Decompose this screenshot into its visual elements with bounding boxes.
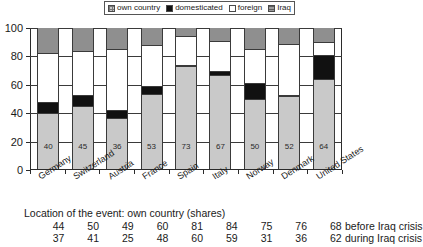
y-axis-tick-label: 100: [5, 23, 23, 34]
table-caption: Location of the event: own country (shar…: [24, 208, 225, 219]
table-cell: 50: [69, 220, 99, 232]
bar-slot: 40: [31, 28, 65, 169]
table-cell: 37: [34, 232, 64, 244]
segment-foreign: [38, 53, 58, 102]
bar-value-label: 67: [210, 143, 230, 151]
segment-domesticated: [314, 56, 334, 79]
stacked-bar[interactable]: 52: [278, 28, 300, 169]
chart-legend: own country domesticated foreign Iraq: [104, 1, 295, 15]
segment-foreign: [279, 44, 299, 96]
segment-domesticated: [210, 72, 230, 75]
table-cell: 59: [208, 232, 238, 244]
bar-value-label: 73: [176, 143, 196, 151]
table-cell: 49: [104, 220, 134, 232]
segment-own-country: [210, 75, 230, 169]
legend-item-domesticated: domesticated: [166, 4, 223, 12]
y-axis-tick-label: 40: [11, 108, 23, 119]
table-row: during Iraq crisis 374125486059313662: [0, 232, 421, 245]
x-axis-category-labels: GermanySwitzerlandAustriaFranceSpainItal…: [30, 174, 342, 206]
segment-own-country: [279, 96, 299, 169]
y-axis-tick-label: 0: [17, 165, 23, 176]
segment-iraq: [73, 28, 93, 51]
segment-own-country: [73, 106, 93, 169]
table-row-label-during: during Iraq crisis: [345, 232, 422, 244]
legend-label-domesticated: domesticated: [175, 4, 223, 12]
bar-value-label: 64: [314, 143, 334, 151]
stacked-bar[interactable]: 73: [175, 28, 197, 169]
y-axis-tick-label: 20: [11, 136, 23, 147]
segment-iraq: [314, 28, 334, 42]
segment-iraq: [245, 28, 265, 49]
legend-item-foreign: foreign: [229, 4, 262, 12]
swatch-iraq-icon: [268, 5, 275, 12]
segment-foreign: [245, 49, 265, 84]
chart-plot-area: 020406080100 404536537367505264: [30, 28, 342, 170]
table-row-label-before: before Iraq crisis: [345, 220, 423, 232]
bar-value-label: 40: [38, 143, 58, 151]
table-cell: 36: [277, 232, 307, 244]
segment-iraq: [107, 28, 127, 49]
stacked-bar[interactable]: 64: [313, 28, 335, 169]
segment-foreign: [314, 42, 334, 56]
table-cell: 84: [208, 220, 238, 232]
legend-label-own-country: own country: [117, 4, 160, 12]
segment-foreign: [107, 49, 127, 111]
table-cell: 76: [277, 220, 307, 232]
stacked-bar[interactable]: 45: [72, 28, 94, 169]
table-cell: 68: [312, 220, 342, 232]
segment-foreign: [176, 36, 196, 66]
segment-domesticated: [245, 84, 265, 98]
swatch-own-country-icon: [108, 5, 115, 12]
segment-foreign: [210, 41, 230, 72]
bar-slot: 45: [65, 28, 99, 169]
table-cell: 41: [69, 232, 99, 244]
segment-domesticated: [142, 87, 162, 94]
segment-iraq: [38, 28, 58, 53]
segment-domesticated: [38, 103, 58, 113]
segment-own-country: [176, 66, 196, 169]
segment-iraq: [176, 28, 196, 36]
segment-domesticated: [107, 111, 127, 118]
stacked-bar[interactable]: 67: [209, 28, 231, 169]
bar-slot: 53: [134, 28, 168, 169]
y-axis-tick-mark: [26, 56, 30, 57]
stacked-bar[interactable]: 40: [37, 28, 59, 169]
table-cell: 60: [173, 232, 203, 244]
bar-value-label: 52: [279, 143, 299, 151]
bar-slot: 36: [100, 28, 134, 169]
segment-own-country: [245, 99, 265, 170]
table-cell: 31: [242, 232, 272, 244]
x-axis-tick-mark: [342, 170, 343, 174]
y-axis-tick-mark: [26, 85, 30, 86]
swatch-domesticated-icon: [166, 5, 173, 12]
bar-value-label: 45: [73, 143, 93, 151]
y-axis-tick-label: 60: [11, 79, 23, 90]
y-axis-tick-mark: [26, 28, 30, 29]
table-cell: 44: [34, 220, 64, 232]
segment-own-country: [314, 79, 334, 169]
bar-group: 404536537367505264: [31, 28, 341, 169]
segment-own-country: [142, 94, 162, 169]
segment-foreign: [73, 51, 93, 96]
table-cell: 75: [242, 220, 272, 232]
stacked-bar[interactable]: 50: [244, 28, 266, 169]
stacked-bar[interactable]: 53: [141, 28, 163, 169]
bar-slot: 73: [169, 28, 203, 169]
swatch-foreign-icon: [229, 5, 236, 12]
table-cell: 62: [312, 232, 342, 244]
bar-slot: 64: [307, 28, 341, 169]
bar-slot: 50: [238, 28, 272, 169]
segment-iraq: [210, 28, 230, 41]
bar-value-label: 50: [245, 143, 265, 151]
segment-iraq: [142, 28, 162, 45]
y-axis-tick-label: 80: [11, 51, 23, 62]
bar-slot: 52: [272, 28, 306, 169]
bar-slot: 67: [203, 28, 237, 169]
legend-item-iraq: Iraq: [268, 4, 291, 12]
table-cell: 25: [104, 232, 134, 244]
legend-label-foreign: foreign: [238, 4, 262, 12]
table-cell: 48: [138, 232, 168, 244]
legend-item-own-country: own country: [108, 4, 160, 12]
segment-iraq: [279, 28, 299, 44]
plot-right-edge: [341, 28, 342, 170]
